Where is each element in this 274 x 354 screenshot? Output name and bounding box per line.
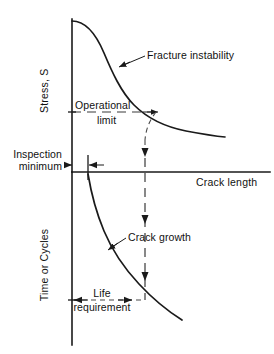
fracture-instability-label: Fracture instability [147, 49, 235, 61]
life-requirement-label-line2: requirement [73, 301, 130, 313]
fracture-instability-curve [72, 21, 225, 137]
transfer-arrow-mid [142, 215, 149, 224]
upper-y-axis-label: Stress, S [38, 69, 50, 113]
fracture-mechanics-diagram: Operational limit Fracture instability S… [0, 0, 274, 354]
fracture-instability-leader-arrow [119, 62, 130, 67]
inspection-minimum-label-line1: Inspection [13, 148, 62, 160]
x-axis-label: Crack length [196, 176, 257, 188]
transfer-arrow-lower [142, 272, 149, 281]
inspection-minimum-label-line2: minimum [19, 160, 62, 172]
diagram-canvas: Operational limit Fracture instability S… [0, 0, 274, 354]
operational-limit-label-line1: Operational [75, 99, 130, 111]
operational-limit-label-line2: limit [97, 114, 116, 126]
life-requirement-label-line1: Life [93, 287, 110, 299]
transfer-arrow-upper [142, 148, 149, 157]
crack-growth-label: Crack growth [128, 231, 191, 243]
lower-y-axis-label: Time or Cycles [38, 229, 50, 301]
